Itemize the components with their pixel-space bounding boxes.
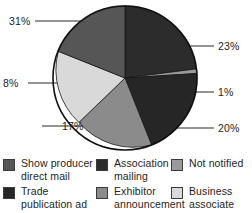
pie-label-8: 8%: [3, 78, 19, 89]
pie-label-17: 17%: [62, 121, 84, 132]
legend-item-business-associate[interactable]: Business associate: [171, 185, 252, 213]
legend-item-association-mailing[interactable]: Association mailing: [96, 157, 171, 185]
legend-item-label: Association mailing: [114, 157, 171, 182]
pie-slice-association-mailing: [125, 6, 196, 78]
pie-chart-plot-area: 31% 23% 1% 20% 17% 8%: [0, 0, 252, 152]
legend-swatch-icon: [96, 159, 108, 171]
pie-chart-figure: 31% 23% 1% 20% 17% 8% Show producer dire…: [0, 0, 252, 213]
pie-label-1: 1%: [218, 87, 234, 98]
legend-swatch-icon: [3, 159, 15, 171]
legend-item-label: Trade publication ad: [21, 185, 96, 210]
pie-label-31: 31%: [9, 16, 31, 27]
legend-swatch-icon: [96, 187, 108, 199]
legend-item-not-notified[interactable]: Not notified: [171, 157, 252, 185]
legend-item-label: Business associate: [189, 185, 252, 210]
legend-item-label: Show producer direct mail: [21, 157, 96, 182]
pie-label-23: 23%: [218, 41, 240, 52]
legend-swatch-icon: [171, 159, 183, 171]
legend-item-exhibitor-announcement[interactable]: Exhibitor announcement: [96, 185, 171, 213]
chart-legend: Show producer direct mail Association ma…: [3, 157, 252, 213]
legend-swatch-icon: [3, 187, 15, 199]
legend-item-trade-publication-ad[interactable]: Trade publication ad: [3, 185, 96, 213]
pie-label-20: 20%: [218, 123, 240, 134]
legend-item-label: Not notified: [189, 157, 243, 170]
pie-chart-svg: [0, 0, 252, 152]
legend-item-show-producer-direct-mail[interactable]: Show producer direct mail: [3, 157, 96, 185]
legend-swatch-icon: [171, 187, 183, 199]
